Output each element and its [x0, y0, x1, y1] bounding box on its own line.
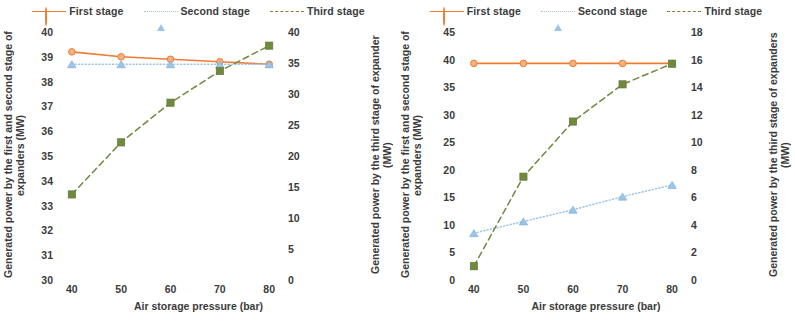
data-point-marker	[570, 60, 577, 67]
y-axis-tick-label: 20	[443, 164, 455, 176]
data-point-marker	[619, 60, 626, 67]
x-axis-ticks-right: 4050607080	[459, 283, 687, 299]
legend-label-third-stage: Third stage	[704, 5, 762, 17]
y2-axis-tick-label: 35	[288, 57, 300, 69]
legend-item-second-stage: Second stage	[144, 5, 250, 17]
legend-swatch-first-stage-icon	[430, 6, 464, 17]
y2-axis-tick-label: 6	[691, 191, 697, 203]
secondary-axis-ticks-left: 4035302520151050	[288, 32, 310, 280]
series-line-third-stage	[474, 64, 672, 267]
y2-axis-tick-label: 30	[288, 88, 300, 100]
chart-panel-right: First stage Second stage Third stage Gen…	[397, 0, 795, 326]
y2-axis-tick-label: 2	[691, 246, 697, 258]
series-canvas	[57, 32, 284, 280]
legend-item-second-stage: Second stage	[541, 5, 647, 17]
y-axis-tick-label: 15	[443, 191, 455, 203]
x-axis-tick-label: 80	[666, 283, 678, 295]
legend-swatch-third-stage-icon	[270, 6, 304, 17]
data-point-marker	[471, 60, 478, 67]
y-axis-tick-label: 40	[41, 26, 53, 38]
data-point-marker	[216, 67, 223, 74]
primary-axis-title-left: Generated power by the first and second …	[2, 30, 28, 280]
x-axis-tick-label: 50	[518, 283, 530, 295]
y-axis-tick-label: 38	[41, 76, 53, 88]
legend-right: First stage Second stage Third stage	[397, 2, 795, 20]
legend-swatch-first-stage-icon	[32, 6, 66, 17]
plot-area-left: Generated power by the first and second …	[0, 20, 397, 326]
legend-label-second-stage: Second stage	[578, 5, 647, 17]
figure-container: First stage Second stage Third stage Gen…	[0, 0, 795, 326]
data-point-marker	[520, 60, 527, 67]
y-axis-tick-label: 36	[41, 125, 53, 137]
legend-label-third-stage: Third stage	[307, 5, 365, 17]
y-axis-tick-label: 35	[443, 81, 455, 93]
legend-label-first-stage: First stage	[467, 5, 521, 17]
x-axis-title-right: Air storage pressure (bar)	[397, 300, 795, 312]
legend-item-first-stage: First stage	[32, 5, 123, 17]
legend-label-second-stage: Second stage	[181, 5, 250, 17]
y2-axis-tick-label: 25	[288, 119, 300, 131]
data-point-marker	[266, 42, 273, 49]
y2-axis-tick-label: 4	[691, 219, 697, 231]
x-axis-tick-label: 70	[617, 283, 629, 295]
y-axis-tick-label: 34	[41, 175, 53, 187]
secondary-axis-title-left: Generated power by the third stage of ex…	[369, 30, 395, 280]
y-axis-tick-label: 39	[41, 51, 53, 63]
y-axis-tick-label: 0	[449, 274, 455, 286]
y2-axis-tick-label: 20	[288, 150, 300, 162]
y-axis-tick-label: 30	[443, 109, 455, 121]
series-canvas	[459, 32, 687, 280]
data-point-marker	[470, 263, 477, 270]
x-axis-tick-label: 40	[468, 283, 480, 295]
y2-axis-tick-label: 40	[288, 26, 300, 38]
chart-panel-left: First stage Second stage Third stage Gen…	[0, 0, 397, 326]
data-point-marker	[470, 230, 478, 237]
y-axis-tick-label: 5	[449, 246, 455, 258]
y2-axis-tick-label: 0	[691, 274, 697, 286]
y-axis-tick-label: 32	[41, 224, 53, 236]
legend-left: First stage Second stage Third stage	[0, 2, 397, 20]
data-point-marker	[68, 191, 75, 198]
primary-axis-ticks-right: 454035302520151050	[429, 32, 455, 280]
legend-item-third-stage: Third stage	[270, 5, 365, 17]
legend-swatch-third-stage-icon	[667, 6, 701, 17]
x-axis-tick-label: 70	[214, 283, 226, 295]
primary-axis-title-right: Generated power by the first and second …	[399, 30, 425, 280]
plot-area-right: Generated power by the first and second …	[397, 20, 795, 326]
x-axis-tick-label: 50	[115, 283, 127, 295]
x-axis-ticks-left: 4050607080	[57, 283, 284, 299]
x-axis-title-left: Air storage pressure (bar)	[0, 300, 397, 312]
data-plot-left	[57, 32, 284, 280]
y-axis-tick-label: 25	[443, 136, 455, 148]
y2-axis-tick-label: 8	[691, 164, 697, 176]
legend-swatch-second-stage-icon	[541, 6, 575, 17]
data-point-marker	[669, 60, 676, 67]
y2-axis-tick-label: 10	[691, 136, 703, 148]
y2-axis-tick-label: 15	[288, 181, 300, 193]
y-axis-tick-label: 33	[41, 200, 53, 212]
y2-axis-tick-label: 18	[691, 26, 703, 38]
legend-swatch-second-stage-icon	[144, 6, 178, 17]
data-point-marker	[118, 139, 125, 146]
primary-axis-ticks-left: 4039383736353433323130	[27, 32, 53, 280]
x-axis-tick-label: 80	[263, 283, 275, 295]
x-axis-tick-label: 60	[165, 283, 177, 295]
secondary-axis-ticks-right: 181614121086420	[691, 32, 713, 280]
legend-item-third-stage: Third stage	[667, 5, 762, 17]
x-axis-tick-label: 60	[567, 283, 579, 295]
y-axis-tick-label: 37	[41, 100, 53, 112]
y-axis-tick-label: 10	[443, 219, 455, 231]
data-point-marker	[118, 54, 125, 61]
x-axis-tick-label: 40	[66, 283, 78, 295]
data-point-marker	[69, 49, 76, 56]
y2-axis-tick-label: 14	[691, 81, 703, 93]
y2-axis-tick-label: 10	[288, 212, 300, 224]
y2-axis-tick-label: 12	[691, 109, 703, 121]
legend-item-first-stage: First stage	[430, 5, 521, 17]
data-point-marker	[569, 118, 576, 125]
y-axis-tick-label: 45	[443, 26, 455, 38]
data-point-marker	[520, 173, 527, 180]
legend-label-first-stage: First stage	[69, 5, 123, 17]
data-plot-right	[459, 32, 687, 280]
y-axis-tick-label: 31	[41, 249, 53, 261]
